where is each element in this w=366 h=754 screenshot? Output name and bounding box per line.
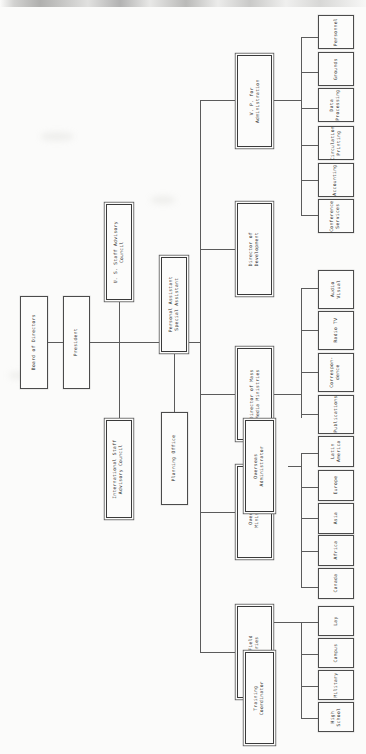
node-vp-for-administration[interactable]: V. P. for Administration	[237, 55, 272, 147]
node-admin-unit-circulation-printing[interactable]: Circulation Printing	[318, 126, 354, 160]
node-label: Europe	[333, 476, 339, 495]
org-chart: Board of Directors President U. S. Staff…	[0, 0, 366, 754]
bus-field-units	[301, 622, 302, 718]
node-training-coordinator[interactable]: Training Coordinator	[245, 652, 274, 744]
node-label: Campus	[333, 644, 339, 663]
connector-region-canada	[301, 587, 318, 588]
node-admin-unit-data-processing[interactable]: Data Processing	[318, 88, 354, 122]
node-media-unit-radio-tv[interactable]: Radio TV	[318, 311, 354, 350]
node-president[interactable]: President	[63, 296, 90, 389]
connector-region-europe	[301, 487, 318, 488]
connector-spine-field	[200, 652, 237, 653]
node-admin-unit-personnel[interactable]: Personnel	[318, 15, 354, 49]
node-label: Correspon- dence	[330, 357, 342, 388]
node-field-unit-military[interactable]: Military	[318, 670, 354, 700]
node-label: Lay	[333, 616, 339, 625]
connector-vp-admin-bus	[272, 100, 301, 101]
node-planning-office[interactable]: Planning Office	[161, 412, 188, 505]
scan-smudge	[150, 196, 176, 204]
node-label: Overseas Administrator	[253, 446, 265, 487]
connector-spine-vp-admin	[200, 100, 237, 101]
connector-spine-mass-media	[200, 394, 237, 395]
node-director-of-development[interactable]: Director of Development	[237, 203, 272, 295]
node-label: Planning Office	[171, 435, 177, 482]
node-admin-unit-grounds[interactable]: Grounds	[318, 52, 354, 86]
connector-admin-circulation	[301, 145, 318, 146]
connector-region-asia	[301, 518, 318, 519]
scan-smudge	[40, 132, 74, 141]
node-media-unit-correspon--dence[interactable]: Correspon- dence	[318, 353, 354, 392]
node-overseas-region-canada[interactable]: Canada	[318, 568, 354, 599]
connector-president-intl-staff	[119, 342, 120, 420]
connector-region-latin-america	[301, 453, 318, 454]
connector-media-radio-tv	[301, 330, 318, 331]
node-label: Grounds	[333, 58, 339, 80]
bus-admin-units	[301, 37, 302, 215]
bus-overseas-regions	[301, 453, 302, 587]
node-label: Circulation Printing	[330, 126, 342, 160]
node-label: Canada	[333, 574, 339, 593]
node-label: Personal Assistant Special Assistant	[168, 276, 180, 332]
scan-artifact-strip	[0, 0, 366, 7]
node-label: Accounting	[333, 164, 339, 195]
connector-mass-media-bus	[272, 394, 301, 395]
node-label: Training Coordinator	[253, 681, 265, 715]
connector-admin-personnel	[301, 37, 318, 38]
node-international-staff-advisory-council[interactable]: International Staff Advisory Council	[106, 420, 132, 518]
node-label: Conference Services	[330, 200, 342, 231]
node-label: U. S. Staff Advisory Council	[113, 221, 125, 283]
connector-field-high-school	[301, 718, 318, 719]
connector-field-campus	[301, 654, 318, 655]
connector-spine-development	[200, 249, 237, 250]
node-overseas-region-asia[interactable]: Asia	[318, 503, 354, 534]
node-media-unit-publications[interactable]: Publications	[318, 395, 354, 434]
connector-field-military	[301, 686, 318, 687]
connector-field-bus	[272, 622, 301, 623]
node-us-staff-advisory-council[interactable]: U. S. Staff Advisory Council	[106, 204, 132, 300]
bus-media-units	[301, 288, 302, 418]
node-label: V. P. for Administration	[248, 79, 260, 123]
node-personal-special-assistant[interactable]: Personal Assistant Special Assistant	[161, 257, 187, 352]
node-label: Latin America	[330, 441, 342, 463]
connector-board-president	[48, 342, 63, 343]
node-board-of-directors[interactable]: Board of Directors	[20, 296, 48, 389]
node-overseas-region-africa[interactable]: Africa	[318, 535, 354, 566]
node-label: President	[73, 328, 79, 356]
node-admin-unit-accounting[interactable]: Accounting	[318, 163, 354, 197]
connector-president-us-staff	[119, 300, 120, 342]
node-field-unit-high-school[interactable]: High School	[318, 702, 354, 732]
connector-media-correspondence	[301, 372, 318, 373]
node-field-unit-campus[interactable]: Campus	[318, 638, 354, 668]
node-label: Board of Directors	[31, 314, 37, 370]
node-media-unit-audio-visual[interactable]: Audio Visual	[318, 270, 354, 309]
node-label: Audio Visual	[330, 280, 342, 299]
connector-admin-conference	[301, 215, 318, 216]
connector-region-africa	[301, 551, 318, 552]
node-overseas-region-latin-america[interactable]: Latin America	[318, 436, 354, 467]
node-overseas-administrator[interactable]: Overseas Administrator	[245, 420, 274, 512]
node-label: Director of Development	[248, 232, 260, 266]
node-label: Personnel	[333, 18, 339, 46]
connector-admin-data-processing	[301, 108, 318, 109]
connector-admin-accounting	[301, 180, 318, 181]
connector-division-spine	[200, 100, 201, 652]
connector-spine-planning-office	[174, 342, 175, 412]
connector-field-lay	[301, 622, 318, 623]
connector-media-publications	[301, 414, 318, 415]
connector-overseas-admin-bus	[288, 466, 301, 467]
node-label: Radio TV	[333, 318, 339, 343]
connector-media-audio-visual	[301, 288, 318, 289]
node-label: Data Processing	[330, 89, 342, 120]
connector-spine-overseas	[200, 512, 237, 513]
node-label: Military	[333, 673, 339, 698]
connector-admin-grounds	[301, 72, 318, 73]
node-overseas-region-europe[interactable]: Europe	[318, 470, 354, 501]
node-field-unit-lay[interactable]: Lay	[318, 606, 354, 636]
node-label: High School	[330, 708, 342, 727]
node-label: International Staff Advisory Council	[113, 439, 125, 498]
node-admin-unit-conference-services[interactable]: Conference Services	[318, 199, 354, 233]
node-label: Africa	[333, 541, 339, 560]
node-label: Asia	[333, 512, 339, 524]
node-label: Publications	[333, 396, 339, 433]
node-label: Director of Mass Media Ministries	[248, 369, 260, 419]
